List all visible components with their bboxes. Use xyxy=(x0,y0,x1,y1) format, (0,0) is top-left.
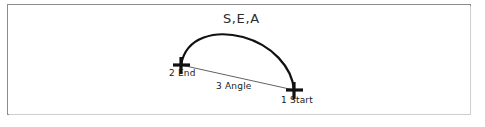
end-point-label: 2 End xyxy=(169,69,196,78)
start-point-label: 1 Start xyxy=(281,96,313,105)
angle-label: 3 Angle xyxy=(216,82,252,91)
figure-root: S,E,A 2 End 3 Angle 1 Start xyxy=(0,0,485,127)
diagram-title: S,E,A xyxy=(223,12,260,25)
